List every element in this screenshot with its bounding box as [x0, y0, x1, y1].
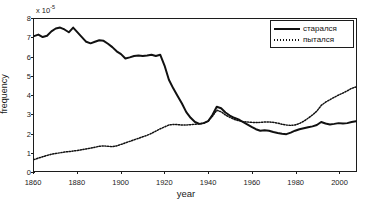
y-tick-label: 5 [5, 71, 31, 80]
x-tick-label: 1960 [244, 178, 261, 187]
x-tick-label: 2000 [331, 178, 348, 187]
y-axis-exponent-power: -5 [50, 4, 55, 10]
x-tick-label: 1860 [25, 178, 42, 187]
y-tick-label: 2 [5, 129, 31, 138]
y-tick-label: 4 [5, 91, 31, 100]
chart-legend: старался пытался [270, 20, 354, 48]
y-tick-label: 3 [5, 110, 31, 119]
x-tick-label: 1940 [200, 178, 217, 187]
series-line-2 [34, 87, 356, 160]
y-tick-label: 7 [5, 33, 31, 42]
y-tick-label: 1 [5, 148, 31, 157]
x-tick-label: 1980 [287, 178, 304, 187]
legend-solid-line-icon [274, 25, 300, 33]
y-axis-exponent-base: x 10 [36, 6, 50, 15]
x-axis-tick-labels: 18601880190019201940196019802000 [33, 174, 357, 188]
y-axis-tick-labels: 012345678 [0, 18, 31, 172]
y-axis-exponent-label: x 10-5 [36, 4, 55, 15]
y-tick-label: 6 [5, 52, 31, 61]
legend-item-solid: старался [274, 23, 350, 34]
figure-canvas: x 10-5 frequency year 012345678 18601880… [0, 0, 372, 208]
x-tick-label: 1900 [112, 178, 129, 187]
x-tick-label: 1880 [68, 178, 85, 187]
x-tick-label: 1920 [156, 178, 173, 187]
legend-dotted-line-icon [274, 36, 300, 44]
y-tick-label: 8 [5, 14, 31, 23]
y-tick-label: 0 [5, 168, 31, 177]
x-axis-title: year [0, 188, 372, 199]
legend-item-dotted: пытался [274, 34, 350, 45]
legend-label-solid: старался [303, 24, 337, 33]
legend-label-dotted: пытался [303, 35, 334, 44]
